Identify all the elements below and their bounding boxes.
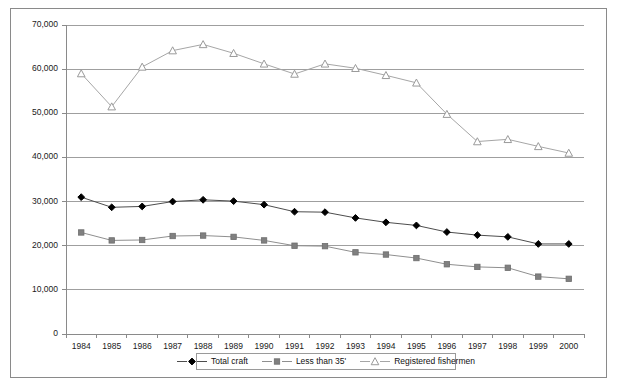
square-marker <box>139 237 144 242</box>
diamond-marker <box>535 241 542 248</box>
square-marker <box>79 230 84 235</box>
square-marker <box>444 262 449 267</box>
square-marker <box>261 238 266 243</box>
series-registered-fishermen <box>77 41 572 157</box>
y-tick-label: 0 <box>0 328 58 338</box>
diamond-marker <box>189 358 196 365</box>
triangle-legend-icon <box>360 356 390 367</box>
diamond-legend-icon <box>177 356 207 367</box>
diamond-marker <box>230 198 237 205</box>
y-tick-label: 40,000 <box>0 151 58 161</box>
square-marker <box>322 243 327 248</box>
square-marker <box>274 359 279 364</box>
y-tick-label: 70,000 <box>0 19 58 29</box>
square-marker <box>566 276 571 281</box>
diamond-marker <box>139 203 146 210</box>
triangle-marker <box>291 70 299 77</box>
diamond-marker <box>474 232 481 239</box>
legend-entry: Total craft <box>177 356 248 367</box>
square-marker <box>414 255 419 260</box>
series-less-than-35 <box>79 230 572 282</box>
triangle-marker <box>199 41 207 48</box>
diamond-marker <box>383 219 390 226</box>
chart-legend: Total craftLess than 35'Registered fishe… <box>196 353 456 370</box>
legend-label: Less than 35' <box>296 356 346 367</box>
square-marker <box>475 264 480 269</box>
series-line <box>81 232 569 278</box>
diamond-marker <box>443 229 450 236</box>
diamond-marker <box>200 196 207 203</box>
y-tick-label: 50,000 <box>0 107 58 117</box>
legend-label: Registered fishermen <box>394 356 475 367</box>
square-marker <box>536 274 541 279</box>
triangle-marker <box>138 63 146 70</box>
square-marker <box>231 234 236 239</box>
diamond-marker <box>169 198 176 205</box>
x-axis-ticks <box>62 25 584 338</box>
square-legend-icon <box>262 356 292 367</box>
square-marker <box>353 250 358 255</box>
series-line <box>81 197 569 244</box>
diamond-marker <box>291 208 298 215</box>
y-tick-label: 60,000 <box>0 63 58 73</box>
diamond-marker <box>108 204 115 211</box>
diamond-marker <box>413 222 420 229</box>
legend-entry: Less than 35' <box>262 356 346 367</box>
square-marker <box>109 238 114 243</box>
triangle-marker <box>77 70 85 77</box>
x-tick-label: 2000 <box>549 341 589 351</box>
square-marker <box>170 233 175 238</box>
triangle-marker <box>371 358 379 365</box>
triangle-marker <box>260 60 268 67</box>
y-tick-label: 30,000 <box>0 196 58 206</box>
gridlines <box>66 25 584 334</box>
diamond-marker <box>352 215 359 222</box>
square-marker <box>383 252 388 257</box>
y-tick-label: 10,000 <box>0 284 58 294</box>
diamond-marker <box>322 209 329 216</box>
diamond-marker <box>565 241 572 248</box>
square-marker <box>292 243 297 248</box>
square-marker <box>505 265 510 270</box>
axes <box>66 25 584 334</box>
diamond-marker <box>261 201 268 208</box>
diamond-marker <box>504 233 511 240</box>
chart-figure: 010,00020,00030,00040,00050,00060,00070,… <box>0 0 617 386</box>
diamond-marker <box>78 194 85 201</box>
y-tick-label: 20,000 <box>0 240 58 250</box>
plot-area <box>0 0 617 386</box>
legend-entry: Registered fishermen <box>360 356 475 367</box>
triangle-marker <box>321 60 329 67</box>
square-marker <box>200 233 205 238</box>
legend-label: Total craft <box>211 356 248 367</box>
